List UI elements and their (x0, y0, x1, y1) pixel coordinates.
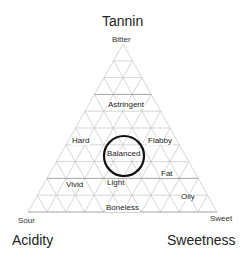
corner-label-sour: Sour (18, 217, 35, 225)
axis-label-acidity: Acidity (12, 233, 53, 247)
region-label-boneless: Boneless (105, 204, 140, 212)
region-label-fat: Fat (160, 170, 174, 178)
corner-label-sweet: Sweet (210, 215, 232, 223)
corner-label-bitter: Bitter (112, 36, 131, 44)
axis-label-sweetness: Sweetness (167, 233, 235, 247)
region-label-oily: Oily (180, 193, 196, 201)
region-label-light: Light (106, 179, 125, 187)
region-label-flabby: Flabby (147, 137, 173, 145)
region-label-vivid: Vivid (65, 181, 84, 189)
region-label-astringent: Astringent (107, 101, 145, 109)
region-label-balanced: Balanced (106, 150, 141, 158)
axis-label-tannin: Tannin (102, 14, 143, 28)
region-label-hard: Hard (71, 137, 90, 145)
